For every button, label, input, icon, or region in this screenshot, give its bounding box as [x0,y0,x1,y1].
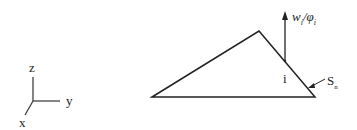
normal-arrow-head [282,11,288,20]
phi-symbol: /φ [303,9,314,24]
x-axis [25,101,33,115]
surface-subscript: n [334,83,338,91]
node-label: i [283,72,287,85]
phi-subscript: i [314,18,316,27]
surface-pointer-head [308,83,315,88]
z-axis-label: z [29,61,35,74]
surface-label: Sn [327,74,338,91]
x-axis-label: x [19,116,26,129]
diagram: z y x wi/φi i Sn [0,0,357,130]
w-symbol: w [292,9,301,24]
y-axis-label: y [66,94,73,107]
node-point [284,60,286,62]
triangle-element [152,31,315,97]
arrow-label: wi/φi [292,10,316,27]
coordinate-axes [25,77,60,115]
